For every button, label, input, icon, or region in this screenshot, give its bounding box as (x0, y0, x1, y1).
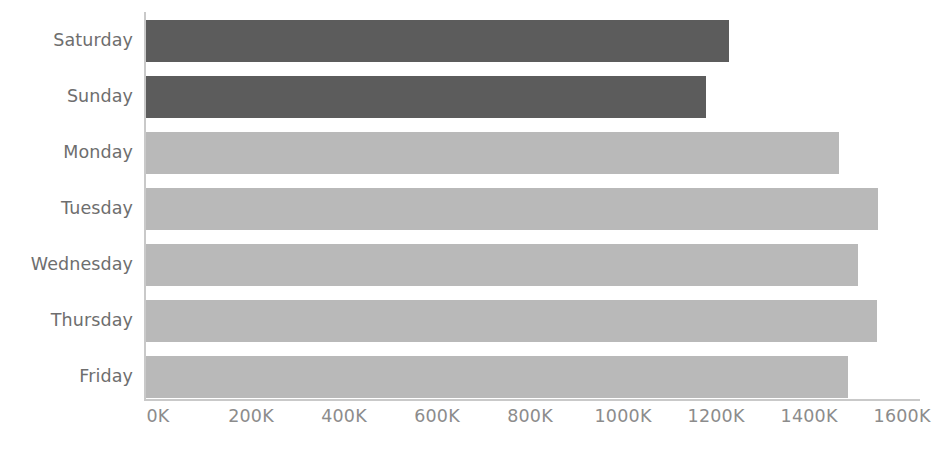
x-tick-label-400: 400K (321, 408, 367, 426)
bar-row[interactable]: Tuesday (0, 188, 937, 230)
bar-friday[interactable] (146, 356, 848, 398)
category-label-saturday: Saturday (0, 32, 133, 50)
x-tick-label-600: 600K (414, 408, 460, 426)
category-label-thursday: Thursday (0, 312, 133, 330)
category-label-wednesday: Wednesday (0, 256, 133, 274)
bar-row[interactable]: Wednesday (0, 244, 937, 286)
x-tick-label-800: 800K (507, 408, 553, 426)
x-tick-label-1400: 1400K (781, 408, 838, 426)
bar-wednesday[interactable] (146, 244, 858, 286)
horizontal-bar-chart: SaturdaySundayMondayTuesdayWednesdayThur… (0, 0, 937, 461)
bar-row[interactable]: Friday (0, 356, 937, 398)
plot-area: SaturdaySundayMondayTuesdayWednesdayThur… (0, 0, 937, 461)
x-tick-label-1600: 1600K (874, 408, 931, 426)
category-label-tuesday: Tuesday (0, 200, 133, 218)
bar-row[interactable]: Sunday (0, 76, 937, 118)
bar-thursday[interactable] (146, 300, 877, 342)
bar-row[interactable]: Saturday (0, 20, 937, 62)
x-tick-label-1200: 1200K (688, 408, 745, 426)
x-tick-label-1000: 1000K (595, 408, 652, 426)
x-tick-label-200: 200K (228, 408, 274, 426)
bar-row[interactable]: Monday (0, 132, 937, 174)
category-label-monday: Monday (0, 144, 133, 162)
bar-sunday[interactable] (146, 76, 706, 118)
x-axis-line (144, 399, 920, 401)
category-label-sunday: Sunday (0, 88, 133, 106)
x-tick-label-0: 0K (146, 408, 169, 426)
bar-monday[interactable] (146, 132, 839, 174)
bar-row[interactable]: Thursday (0, 300, 937, 342)
bar-saturday[interactable] (146, 20, 729, 62)
bar-tuesday[interactable] (146, 188, 878, 230)
category-label-friday: Friday (0, 368, 133, 386)
